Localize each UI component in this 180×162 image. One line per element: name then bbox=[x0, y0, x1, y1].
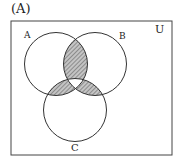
set-a-label: A bbox=[24, 30, 31, 40]
set-c-label: C bbox=[71, 142, 79, 153]
universe-label: U bbox=[155, 23, 164, 36]
set-b-label: B bbox=[119, 31, 126, 41]
venn-diagram bbox=[0, 0, 180, 162]
